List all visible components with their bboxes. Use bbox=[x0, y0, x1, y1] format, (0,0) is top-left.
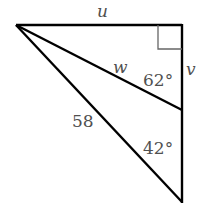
hypotenuse-58 bbox=[16, 25, 182, 202]
triangle-diagram: u v w 62° 58 42° bbox=[0, 0, 206, 218]
label-angle-42: 42° bbox=[143, 140, 173, 157]
segment-w bbox=[16, 25, 182, 110]
label-v: v bbox=[186, 61, 196, 78]
label-u: u bbox=[97, 3, 108, 20]
label-w: w bbox=[113, 59, 128, 76]
label-angle-62: 62° bbox=[143, 72, 173, 89]
right-angle-marker-icon bbox=[158, 25, 182, 49]
label-hypotenuse-58: 58 bbox=[72, 113, 94, 130]
triangle-figure bbox=[0, 0, 206, 218]
